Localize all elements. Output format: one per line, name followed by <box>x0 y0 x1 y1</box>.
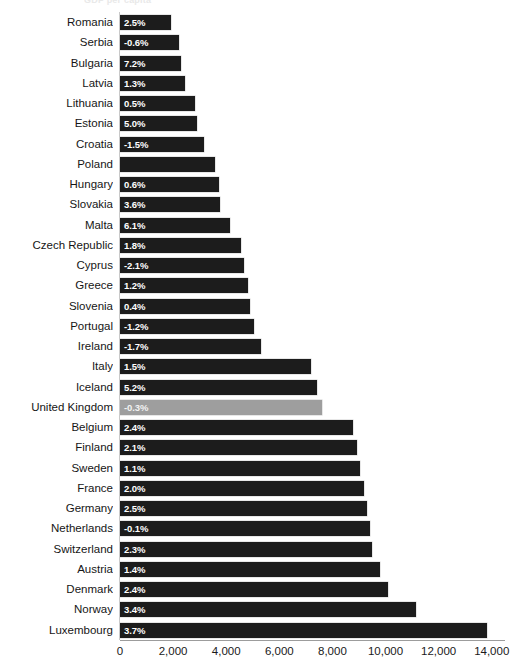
bar <box>120 380 317 395</box>
bar-row: Ireland-1.7% <box>0 336 513 357</box>
bar-value-label: -0.3% <box>124 400 148 415</box>
bar-value-label: 3.4% <box>124 602 145 617</box>
bar <box>120 602 416 617</box>
category-label: Hungary <box>0 174 113 195</box>
category-label: Finland <box>0 437 113 458</box>
bar-row: Latvia1.3% <box>0 73 513 94</box>
category-label: Cyprus <box>0 255 113 276</box>
bar-row: Malta6.1% <box>0 215 513 236</box>
category-label: Italy <box>0 356 113 377</box>
bar-row: Slovenia0.4% <box>0 296 513 317</box>
bar-row: Italy1.5% <box>0 356 513 377</box>
bar-value-label: 1.5% <box>124 359 145 374</box>
x-axis-tick-label: 4,000 <box>212 645 241 657</box>
bar-value-label: 2.4% <box>124 582 145 597</box>
category-label: Serbia <box>0 32 113 53</box>
category-label: Luxembourg <box>0 620 113 641</box>
bar-row: France2.0% <box>0 478 513 499</box>
bar <box>120 501 367 516</box>
bar-value-label: 1.4% <box>124 562 145 577</box>
bar-row: Luxembourg3.7% <box>0 620 513 641</box>
bar-row: Netherlands-0.1% <box>0 518 513 539</box>
bar-row: Austria1.4% <box>0 559 513 580</box>
bar-row: Norway3.4% <box>0 599 513 620</box>
bar-row: Iceland5.2% <box>0 377 513 398</box>
bar <box>120 562 380 577</box>
bar <box>120 359 311 374</box>
category-label: Malta <box>0 215 113 236</box>
bar-value-label: 1.2% <box>124 278 145 293</box>
bar-row: Czech Republic1.8% <box>0 235 513 256</box>
bar-value-label: 5.2% <box>124 380 145 395</box>
bar-row: Serbia-0.6% <box>0 32 513 53</box>
bar-row: Lithuania0.5% <box>0 93 513 114</box>
category-label: Lithuania <box>0 93 113 114</box>
bar-row: Croatia-1.5% <box>0 134 513 155</box>
bar-row: Switzerland2.3% <box>0 539 513 560</box>
bar <box>120 582 388 597</box>
bar-value-label: -0.6% <box>124 35 148 50</box>
bar-row: Hungary0.6% <box>0 174 513 195</box>
bar-value-label: 0.6% <box>124 177 145 192</box>
x-axis-tick-label: 10,000 <box>368 645 403 657</box>
bar <box>120 623 487 638</box>
bar-value-label: 6.1% <box>124 218 145 233</box>
bar <box>120 542 372 557</box>
category-label: Netherlands <box>0 518 113 539</box>
bar <box>120 157 215 172</box>
category-label: Latvia <box>0 73 113 94</box>
bar-value-label: 1.3% <box>124 76 145 91</box>
x-axis-tick-label: 12,000 <box>421 645 456 657</box>
bar-value-label: 3.7% <box>124 623 145 638</box>
bar-row: United Kingdom-0.3% <box>0 397 513 418</box>
category-label: Germany <box>0 498 113 519</box>
bar-row: Cyprus-2.1% <box>0 255 513 276</box>
bar-value-label: 5.0% <box>124 116 145 131</box>
bar-row: Belgium2.4% <box>0 417 513 438</box>
category-label: Slovenia <box>0 296 113 317</box>
category-label: Austria <box>0 559 113 580</box>
plot-area: Romania2.5%Serbia-0.6%Bulgaria7.2%Latvia… <box>0 0 513 671</box>
category-label: Slovakia <box>0 194 113 215</box>
bar-value-label: 0.4% <box>124 299 145 314</box>
bar-row: Bulgaria7.2% <box>0 53 513 74</box>
x-axis-tick-label: 8,000 <box>318 645 347 657</box>
bar-row: Estonia5.0% <box>0 113 513 134</box>
category-label: Norway <box>0 599 113 620</box>
bar <box>120 481 364 496</box>
bar-row: Greece1.2% <box>0 275 513 296</box>
bar-value-label: -1.5% <box>124 137 148 152</box>
category-label: United Kingdom <box>0 397 113 418</box>
category-label: Romania <box>0 12 113 33</box>
bar-row: Germany2.5% <box>0 498 513 519</box>
bar-row: Finland2.1% <box>0 437 513 458</box>
bar-value-label: 2.5% <box>124 501 145 516</box>
category-label: Poland <box>0 154 113 175</box>
bar-value-label: -1.2% <box>124 319 148 334</box>
x-axis-tick-label: 0 <box>117 645 123 657</box>
bar <box>120 521 370 536</box>
category-label: Belgium <box>0 417 113 438</box>
x-axis-tick-label: 6,000 <box>265 645 294 657</box>
category-label: Switzerland <box>0 539 113 560</box>
bar-value-label: -0.1% <box>124 521 148 536</box>
chart-container: GDP per capita Romania2.5%Serbia-0.6%Bul… <box>0 0 513 671</box>
bar-value-label: 2.0% <box>124 481 145 496</box>
bar-row: Sweden1.1% <box>0 458 513 479</box>
bar-value-label: -1.7% <box>124 339 148 354</box>
x-axis-tick-label: 14,000 <box>474 645 509 657</box>
bar-value-label: 7.2% <box>124 56 145 71</box>
category-label: Croatia <box>0 134 113 155</box>
bar-value-label: 1.8% <box>124 238 145 253</box>
category-label: Ireland <box>0 336 113 357</box>
bar <box>120 400 322 415</box>
bar-value-label: 1.1% <box>124 461 145 476</box>
bar-value-label: 2.3% <box>124 542 145 557</box>
category-label: Estonia <box>0 113 113 134</box>
bar-row: Poland <box>0 154 513 175</box>
bar-value-label: 0.5% <box>124 96 145 111</box>
category-label: Sweden <box>0 458 113 479</box>
bar-value-label: 2.1% <box>124 440 145 455</box>
category-label: Portugal <box>0 316 113 337</box>
x-axis-tick-label: 2,000 <box>159 645 188 657</box>
